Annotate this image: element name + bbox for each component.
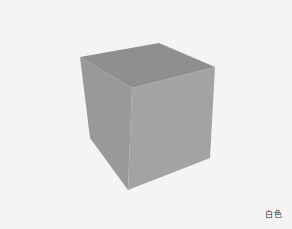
color-label: 白色 — [265, 208, 282, 219]
cube-render — [0, 0, 292, 229]
